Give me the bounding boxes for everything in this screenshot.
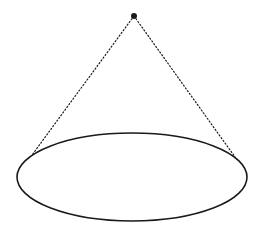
apex-point xyxy=(131,13,137,19)
base-ellipse xyxy=(17,133,247,221)
cone-diagram xyxy=(0,0,259,241)
right-dotted-edge xyxy=(134,16,235,157)
left-dotted-edge xyxy=(32,16,134,155)
